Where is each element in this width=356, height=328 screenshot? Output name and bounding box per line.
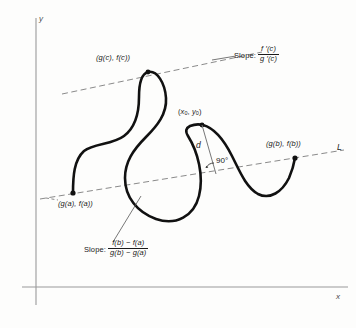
- point-g-c-f-c-dot: [146, 70, 151, 75]
- secant-slope-fraction: f(b) − f(a) g(b) − g(a): [108, 239, 148, 257]
- label-distance-d: d: [196, 140, 201, 150]
- point-g-a-f-a-dot: [70, 190, 75, 195]
- label-tangent-slope: Slope: f ′(c) g ′(c): [234, 46, 279, 64]
- label-secant-slope: Slope: f(b) − f(a) g(b) − g(a): [84, 240, 148, 258]
- tangent-slope-denominator: g ′(c): [258, 55, 279, 64]
- figure-canvas: y x (g(c), f(c)) (g(a), f(a)) (g(b), f(b…: [0, 0, 356, 328]
- point-a-leader: [46, 198, 58, 200]
- secant-slope-leader: [113, 196, 141, 242]
- tangent-slope-fraction: f ′(c) g ′(c): [258, 45, 279, 63]
- axes-group: [22, 18, 348, 305]
- label-point-g-b-f-b: (g(b), f(b)): [266, 139, 301, 148]
- secant-slope-denominator: g(b) − g(a): [108, 249, 148, 258]
- secant-line-L: [40, 150, 344, 199]
- parametric-curve: [73, 72, 295, 221]
- label-point-x0-y0: (x0, y0): [178, 107, 202, 116]
- label-point-g-a-f-a: (g(a), f(a)): [58, 199, 93, 208]
- label-right-angle: 90°: [216, 156, 228, 165]
- tangent-line-parallel: [62, 52, 262, 94]
- diagram-svg: [0, 0, 356, 328]
- secant-slope-word: Slope:: [84, 245, 106, 254]
- y-axis-label: y: [39, 14, 43, 23]
- label-secant-line-L: L: [337, 142, 342, 152]
- x-axis-label: x: [336, 292, 340, 301]
- x0y0-close: ): [199, 107, 202, 116]
- label-point-g-c-f-c: (g(c), f(c)): [96, 53, 130, 62]
- tangent-slope-word: Slope:: [234, 51, 256, 60]
- point-g-b-f-b-dot: [292, 155, 297, 160]
